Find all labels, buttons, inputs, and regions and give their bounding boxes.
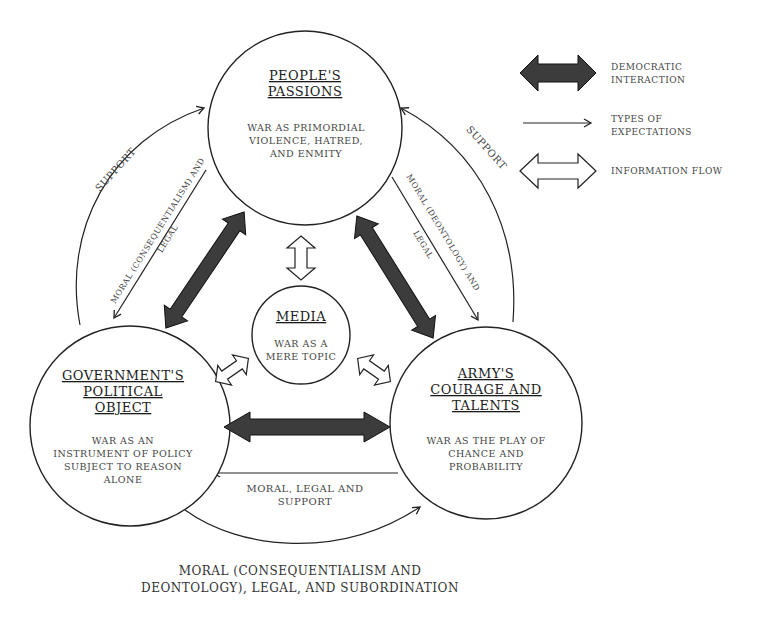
army-to-gov-label-2: SUPPORT bbox=[278, 496, 332, 507]
legend-democratic-label-2: INTERACTION bbox=[611, 75, 685, 85]
info-arrow-army-media bbox=[351, 349, 398, 392]
legend-information-icon bbox=[520, 154, 596, 188]
army-to-gov-label-1: MORAL, LEGAL AND bbox=[246, 483, 363, 494]
army-desc-3: PROBABILITY bbox=[449, 461, 523, 472]
people-desc-2: VIOLENCE, HATRED, bbox=[248, 135, 363, 146]
army-title-3: TALENTS bbox=[452, 398, 520, 413]
army-title-2: COURAGE AND bbox=[430, 382, 541, 397]
media-desc-2: MERE TOPIC bbox=[266, 351, 336, 362]
government-to-army-arc bbox=[185, 507, 420, 543]
democratic-arrow-people-government bbox=[154, 204, 256, 336]
democratic-arrow-government-army bbox=[224, 412, 390, 442]
government-desc-1: WAR AS AN bbox=[92, 435, 154, 446]
government-title-2: POLITICAL bbox=[83, 384, 162, 399]
government-desc-4: ALONE bbox=[103, 474, 143, 485]
right-support-label: SUPPORT bbox=[464, 124, 509, 172]
people-desc-1: WAR AS PRIMORDIAL bbox=[247, 122, 365, 133]
legend-expectations-label-2: EXPECTATIONS bbox=[611, 127, 692, 137]
legend-democratic-icon bbox=[520, 55, 596, 91]
media-desc-1: WAR AS A bbox=[274, 338, 328, 349]
people-title-2: PASSIONS bbox=[268, 84, 343, 99]
legend-information-label: INFORMATION FLOW bbox=[611, 166, 723, 176]
legend-democratic-label-1: DEMOCRATIC bbox=[611, 62, 683, 72]
democratic-arrow-people-army bbox=[345, 209, 445, 346]
right-support-arrow bbox=[401, 108, 514, 322]
right-moral-label-2: LEGAL bbox=[411, 229, 435, 260]
army-desc-1: WAR AS THE PLAY OF bbox=[426, 435, 545, 446]
legend-expectations-label-1: TYPES OF bbox=[611, 114, 662, 124]
government-title-3: OBJECT bbox=[95, 400, 152, 415]
bottom-label-1: MORAL (CONSEQUENTIALISM AND bbox=[179, 564, 422, 578]
people-title-1: PEOPLE'S bbox=[269, 68, 341, 83]
info-arrow-people-media bbox=[287, 236, 315, 280]
legend: DEMOCRATIC INTERACTION TYPES OF EXPECTAT… bbox=[520, 55, 723, 188]
media-circle bbox=[252, 286, 350, 384]
government-title-1: GOVERNMENT'S bbox=[62, 368, 184, 383]
government-desc-3: SUBJECT TO REASON bbox=[64, 461, 182, 472]
government-desc-2: INSTRUMENT OF POLICY bbox=[53, 448, 193, 459]
media-title: MEDIA bbox=[276, 309, 326, 324]
army-circle bbox=[390, 327, 582, 519]
government-circle bbox=[30, 326, 230, 526]
left-support-label: SUPPORT bbox=[93, 146, 138, 194]
trinity-diagram: PEOPLE'S PASSIONS WAR AS PRIMORDIAL VIOL… bbox=[0, 0, 758, 619]
army-desc-2: CHANCE AND bbox=[448, 448, 524, 459]
bottom-label-2: DEONTOLOGY), LEGAL, AND SUBORDINATION bbox=[141, 581, 459, 595]
army-title-1: ARMY'S bbox=[457, 366, 515, 381]
people-desc-3: AND ENMITY bbox=[269, 148, 342, 159]
